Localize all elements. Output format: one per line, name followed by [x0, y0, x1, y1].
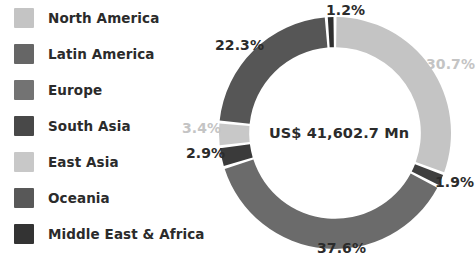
- legend-label-middle-east-africa: Middle East & Africa: [48, 224, 205, 244]
- chart-page: North America Latin America Europe South…: [0, 0, 476, 266]
- legend-item-oceania[interactable]: Oceania: [14, 188, 110, 208]
- slice-label-north-america: 30.7%: [426, 56, 475, 72]
- slice-label-south-asia: 1.9%: [435, 174, 474, 190]
- donut-slice[interactable]: [219, 124, 250, 146]
- donut-slice[interactable]: [328, 17, 334, 47]
- legend-swatch-oceania: [14, 188, 34, 208]
- legend-swatch-middle-east-africa: [14, 224, 34, 244]
- legend-swatch-north-america: [14, 8, 34, 28]
- legend-label-north-america: North America: [48, 8, 159, 28]
- donut-slice[interactable]: [225, 160, 438, 249]
- slice-label-middle-east-africa-top: 1.2%: [326, 2, 365, 18]
- slice-label-middle-east-africa-left: 2.9%: [186, 145, 225, 161]
- donut-chart: US$ 41,602.7 Mn 30.7% 1.9% 37.6% 2.9% 3.…: [196, 0, 476, 266]
- legend-label-east-asia: East Asia: [48, 152, 119, 172]
- legend-item-middle-east-africa[interactable]: Middle East & Africa: [14, 224, 205, 244]
- slice-label-latin-america: 37.6%: [317, 240, 366, 256]
- legend-item-east-asia[interactable]: East Asia: [14, 152, 119, 172]
- donut-slice[interactable]: [220, 17, 328, 123]
- legend-swatch-south-asia: [14, 116, 34, 136]
- legend-label-europe: Europe: [48, 80, 102, 100]
- slice-label-oceania: 22.3%: [215, 37, 264, 53]
- legend-label-oceania: Oceania: [48, 188, 110, 208]
- legend-swatch-latin-america: [14, 44, 34, 64]
- donut-slice[interactable]: [336, 17, 451, 172]
- slice-label-east-asia: 3.4%: [182, 120, 221, 136]
- legend-swatch-europe: [14, 80, 34, 100]
- legend-item-south-asia[interactable]: South Asia: [14, 116, 131, 136]
- legend-item-europe[interactable]: Europe: [14, 80, 102, 100]
- chart-legend: North America Latin America Europe South…: [0, 0, 200, 266]
- legend-swatch-east-asia: [14, 152, 34, 172]
- legend-item-north-america[interactable]: North America: [14, 8, 159, 28]
- legend-label-latin-america: Latin America: [48, 44, 154, 64]
- legend-label-south-asia: South Asia: [48, 116, 131, 136]
- legend-item-latin-america[interactable]: Latin America: [14, 44, 154, 64]
